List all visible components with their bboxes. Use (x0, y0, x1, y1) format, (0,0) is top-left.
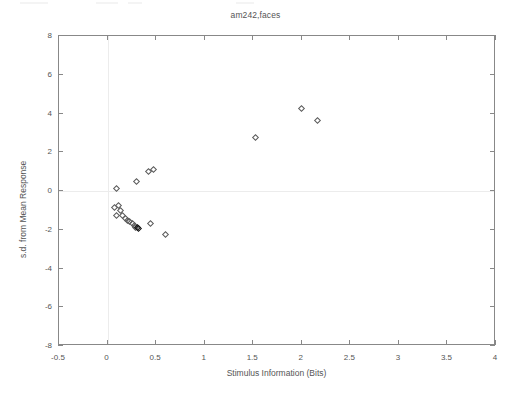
x-tick-top (301, 35, 302, 40)
x-tick (107, 340, 108, 345)
x-tick (495, 340, 496, 345)
chart-canvas: am242,faces Stimulus Information (Bits) … (0, 0, 511, 393)
top-artifact-1 (20, 2, 48, 4)
top-artifact-3 (128, 2, 142, 4)
y-tick-label: -6 (34, 302, 52, 311)
x-tick (398, 340, 399, 345)
y-tick (58, 306, 63, 307)
x-tick (446, 340, 447, 345)
y-tick (58, 113, 63, 114)
y-tick-label: -2 (34, 224, 52, 233)
x-axis-label: Stimulus Information (Bits) (58, 368, 495, 378)
y-tick-right (490, 268, 495, 269)
y-tick-right (490, 229, 495, 230)
y-tick (58, 229, 63, 230)
y-axis-label: s.d. from Mean Response (18, 161, 28, 258)
x-tick-top (204, 35, 205, 40)
x-tick-label: 4 (493, 353, 497, 362)
x-tick-label: 3 (396, 353, 400, 362)
x-tick (349, 340, 350, 345)
y-tick-label: 4 (34, 108, 52, 117)
x-tick-label: 0 (104, 353, 108, 362)
x-tick-label: 0.5 (150, 353, 161, 362)
y-tick-label: 2 (34, 147, 52, 156)
x-tick-top (349, 35, 350, 40)
x-tick-top (398, 35, 399, 40)
x-tick (301, 340, 302, 345)
x-tick-label: 1 (201, 353, 205, 362)
x-tick-label: 3.5 (441, 353, 452, 362)
top-artifact-4 (236, 2, 254, 4)
x-tick-label: 2.5 (344, 353, 355, 362)
y-zero-line (59, 191, 494, 192)
y-tick-label: 6 (34, 69, 52, 78)
chart-title: am242,faces (0, 10, 511, 20)
y-tick-right (490, 74, 495, 75)
x-zero-line (108, 36, 109, 344)
y-tick-label: 0 (34, 186, 52, 195)
x-tick (252, 340, 253, 345)
y-tick (58, 74, 63, 75)
y-tick (58, 35, 63, 36)
y-tick (58, 345, 63, 346)
x-tick-label: -0.5 (51, 353, 65, 362)
x-tick-top (252, 35, 253, 40)
y-tick (58, 190, 63, 191)
plot-area (58, 35, 495, 345)
y-tick-right (490, 345, 495, 346)
y-tick-label: -8 (34, 341, 52, 350)
x-tick-label: 1.5 (247, 353, 258, 362)
x-tick-top (155, 35, 156, 40)
x-tick-top (446, 35, 447, 40)
top-artifact-2 (96, 2, 118, 4)
x-tick (204, 340, 205, 345)
y-tick (58, 268, 63, 269)
x-tick-top (495, 35, 496, 40)
x-tick (155, 340, 156, 345)
y-tick-right (490, 151, 495, 152)
y-tick-right (490, 35, 495, 36)
x-tick-top (107, 35, 108, 40)
y-tick-right (490, 113, 495, 114)
y-tick-right (490, 306, 495, 307)
y-tick-label: -4 (34, 263, 52, 272)
y-tick (58, 151, 63, 152)
y-tick-right (490, 190, 495, 191)
x-tick-label: 2 (299, 353, 303, 362)
y-tick-label: 8 (34, 31, 52, 40)
